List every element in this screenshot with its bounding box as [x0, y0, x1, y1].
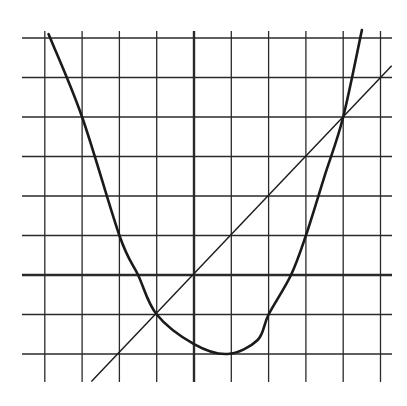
graph-plot [0, 0, 407, 406]
grid-lines [22, 31, 392, 382]
line-y-equals-x [91, 66, 391, 382]
parabola-curve [49, 30, 362, 354]
